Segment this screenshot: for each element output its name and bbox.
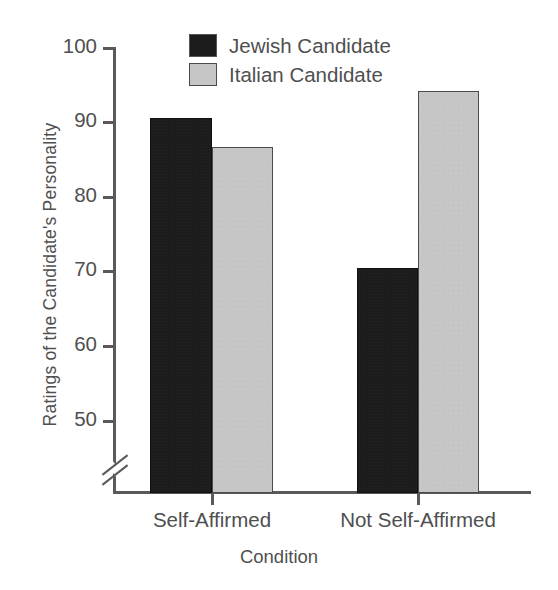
x-tick-label-self-affirmed: Self-Affirmed [153, 508, 271, 532]
y-tick-label-70: 70 [33, 257, 97, 281]
bar-texture [213, 148, 272, 492]
y-tick-90 [103, 121, 114, 124]
y-tick-50 [103, 420, 114, 423]
y-tick-70 [103, 270, 114, 273]
y-tick-label-100: 100 [33, 34, 97, 58]
bar-italian-self-affirmed [212, 147, 273, 493]
y-tick-100 [103, 47, 114, 50]
y-tick-label-90: 90 [33, 108, 97, 132]
y-tick-label-80: 80 [33, 183, 97, 207]
y-tick-80 [103, 196, 114, 199]
legend-label-italian-candidate: Italian Candidate [229, 63, 383, 87]
x-tick-label-not-self-affirmed: Not Self-Affirmed [340, 508, 496, 532]
bar-jewish-self-affirmed [150, 118, 212, 493]
bar-texture [358, 269, 417, 492]
y-tick-60 [103, 345, 114, 348]
legend-item-jewish-candidate: Jewish Candidate [189, 31, 391, 60]
bar-texture [151, 119, 211, 492]
x-tick-self-affirmed [211, 494, 214, 505]
legend-swatch-dark-icon [189, 34, 217, 57]
bar-texture [419, 92, 478, 492]
legend-item-italian-candidate: Italian Candidate [189, 60, 391, 89]
y-tick-label-60: 60 [33, 332, 97, 356]
y-tick-label-50: 50 [33, 407, 97, 431]
bar-italian-not-self-affirmed [418, 91, 479, 493]
x-tick-not-self-affirmed [417, 494, 420, 505]
bar-jewish-not-self-affirmed [357, 268, 418, 493]
x-axis-title: Condition [0, 546, 558, 568]
legend-swatch-light-icon [189, 63, 217, 86]
legend: Jewish Candidate Italian Candidate [189, 31, 391, 89]
axis-break-icon [99, 452, 131, 486]
legend-label-jewish-candidate: Jewish Candidate [229, 34, 391, 58]
bar-chart-figure: Ratings of the Candidate's Personality 1… [0, 0, 558, 590]
